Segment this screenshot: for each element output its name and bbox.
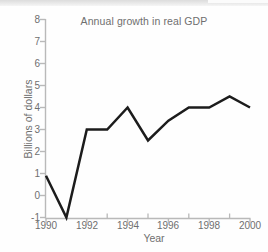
plot-area xyxy=(0,0,268,252)
gdp-line-chart-figure: Annual growth in real GDP Billions of do… xyxy=(0,0,268,252)
gdp-data-line xyxy=(46,97,250,218)
x-axis-major-ticks xyxy=(46,219,250,225)
x-axis-minor-ticks xyxy=(66,214,229,219)
axis-spines xyxy=(46,19,251,219)
y-axis-ticks xyxy=(40,20,46,218)
